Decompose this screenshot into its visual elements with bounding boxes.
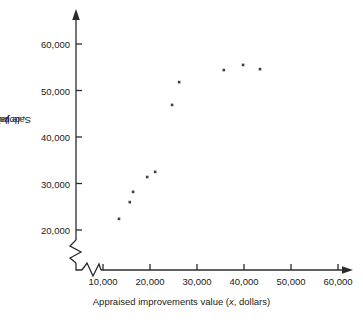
data-point	[259, 68, 262, 71]
x-tick-label: 20,000	[125, 277, 175, 287]
y-axis-ticks	[76, 44, 82, 230]
scatter-plot-figure: 20,000 30,000 40,000 50,000 60,000 10,00…	[0, 0, 363, 322]
x-tick-label: 30,000	[172, 277, 222, 287]
x-tick-label: 50,000	[266, 277, 316, 287]
x-tick-label: 60,000	[313, 277, 363, 287]
y-axis-lower-stub	[76, 263, 82, 270]
y-axis-break-icon	[70, 240, 81, 263]
data-point	[242, 64, 245, 67]
y-axis-title-suffix: , dollars)	[0, 115, 25, 125]
y-tick-label: 30,000	[20, 180, 70, 190]
y-tick-label: 40,000	[20, 133, 70, 143]
x-axis-ticks	[103, 264, 338, 270]
x-tick-label: 10,000	[78, 277, 128, 287]
data-point	[171, 104, 174, 107]
y-tick-label: 50,000	[20, 87, 70, 97]
data-point-group	[118, 64, 262, 221]
x-axis-title-prefix: Appraised improvements value (	[93, 296, 229, 307]
y-tick-label: 60,000	[20, 40, 70, 50]
y-axis-arrowhead	[72, 9, 80, 20]
data-point	[118, 218, 121, 221]
data-point	[146, 176, 149, 179]
data-point	[222, 69, 225, 72]
x-axis-title-suffix: , dollars)	[234, 296, 270, 307]
data-point	[132, 191, 135, 194]
y-axis-title: Sale price (y, dollars)	[0, 0, 14, 240]
data-point	[128, 201, 131, 204]
x-tick-label: 40,000	[219, 277, 269, 287]
data-point	[154, 171, 157, 174]
x-axis-break-icon	[82, 263, 101, 276]
y-tick-label: 20,000	[20, 226, 70, 236]
data-point	[178, 81, 181, 84]
x-axis-title: Appraised improvements value (x, dollars…	[0, 297, 363, 307]
x-axis-arrowhead	[342, 266, 353, 274]
